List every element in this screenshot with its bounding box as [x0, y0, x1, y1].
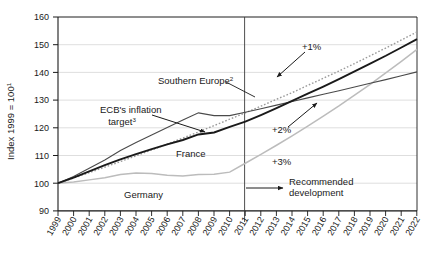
line-chart: 160 150 140 130 120 110 100 90 Index 199…: [0, 0, 436, 270]
rate-callout-3pct: +3%: [272, 156, 292, 167]
rate-callout-1pct: +1%: [302, 41, 322, 52]
y-axis-title-text: Index 1999 = 100: [5, 86, 16, 160]
x-tick-label-2017: 2017: [325, 215, 344, 237]
southern-europe-text: Southern Europe: [158, 75, 230, 86]
series-label-ecb-line1: ECB's inflation: [100, 104, 161, 115]
ecb-target-text: target: [108, 116, 133, 127]
x-tick-label-2022: 2022: [403, 215, 422, 237]
rate-callout-2pct: +2%: [272, 124, 292, 135]
x-tick-label-2014: 2014: [279, 215, 298, 237]
southern-europe-superscript: 2: [230, 75, 234, 82]
y-tick-label-90: 90: [39, 206, 49, 216]
x-tick-label-2018: 2018: [341, 215, 360, 237]
x-tick-label-2004: 2004: [123, 215, 142, 237]
y-tick-label-110: 110: [35, 151, 49, 161]
ecb-target-leader-arrow: [152, 115, 205, 132]
note-recommended-line2: development: [289, 187, 344, 198]
note-recommended-line1: Recommended: [289, 176, 353, 187]
x-tick-label-2000: 2000: [60, 215, 79, 237]
y-axis-title: Index 1999 = 1001: [5, 82, 16, 160]
x-tick-label-1999: 1999: [45, 215, 64, 237]
y-tick-label-150: 150: [34, 40, 49, 50]
x-tick-label-2007: 2007: [169, 215, 188, 237]
series-label-germany: Germany: [124, 189, 163, 200]
y-tick-label-100: 100: [34, 179, 49, 189]
y-tick-label-130: 130: [34, 95, 49, 105]
y-tick-label-160: 160: [34, 12, 49, 22]
chart-container: 160 150 140 130 120 110 100 90 Index 199…: [0, 0, 436, 270]
x-tick-label-2021: 2021: [388, 215, 407, 237]
x-tick-label-2008: 2008: [185, 215, 204, 237]
x-tick-label-2020: 2020: [372, 215, 391, 237]
series-label-ecb-line2: target3: [108, 116, 136, 127]
series-label-france: France: [176, 148, 206, 159]
x-tick-marks: [58, 211, 417, 216]
x-tick-label-2015: 2015: [294, 215, 313, 237]
x-tick-label-2005: 2005: [138, 215, 157, 237]
series-label-southern-europe: Southern Europe2: [158, 75, 234, 86]
ecb-target-superscript: 3: [132, 116, 136, 123]
x-tick-label-2012: 2012: [247, 215, 266, 237]
x-tick-labels: 1999 2000 2001 2002 2003 2004 2005 2006 …: [45, 215, 422, 237]
x-tick-label-2016: 2016: [310, 215, 329, 237]
x-tick-label-2013: 2013: [263, 215, 282, 237]
y-tick-label-140: 140: [34, 68, 49, 78]
x-tick-label-2019: 2019: [357, 215, 376, 237]
y-tick-labels: 160 150 140 130 120 110 100 90: [34, 12, 49, 216]
x-tick-label-2010: 2010: [216, 215, 235, 237]
rate1-leader-arrow: [277, 52, 305, 77]
y-tick-label-120: 120: [34, 123, 49, 133]
y-axis-title-superscript: 1: [5, 82, 12, 86]
y-tick-marks: [53, 17, 58, 211]
southern-europe-leader: [226, 82, 255, 97]
x-tick-label-2003: 2003: [107, 215, 126, 237]
x-tick-label-2006: 2006: [154, 215, 173, 237]
x-tick-label-2009: 2009: [201, 215, 220, 237]
x-tick-label-2002: 2002: [91, 215, 110, 237]
x-tick-label-2001: 2001: [76, 215, 95, 237]
